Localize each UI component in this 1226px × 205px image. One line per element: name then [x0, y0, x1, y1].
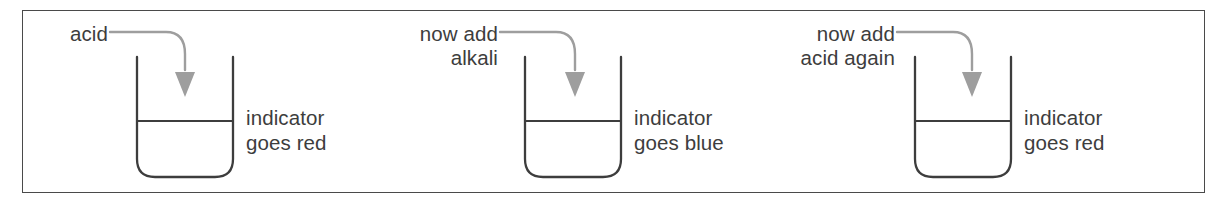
indicator-colour-change-figure: acid indicator goes red now add alkali	[0, 0, 1226, 205]
stage-2: now add alkali indicator goes blue	[388, 0, 788, 205]
stage-1: acid indicator goes red	[0, 0, 400, 205]
stage-2-input-label: now add alkali	[388, 22, 498, 70]
stage-1-result-label: indicator goes red	[246, 105, 396, 155]
stage-1-input-label: acid	[0, 22, 108, 46]
stage-2-beaker	[521, 55, 625, 183]
stage-3-beaker	[911, 55, 1015, 183]
stage-3-input-label: now add acid again	[777, 22, 895, 70]
stage-1-beaker	[133, 55, 237, 183]
stage-2-result-label: indicator goes blue	[634, 105, 789, 155]
stage-3: now add acid again indicator goes red	[777, 0, 1197, 205]
stage-3-result-label: indicator goes red	[1024, 105, 1174, 155]
